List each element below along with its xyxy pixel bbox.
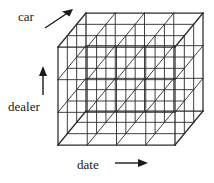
up-arrow-icon — [36, 66, 50, 96]
right-arrow-icon — [115, 156, 149, 170]
axis-label-car: car — [18, 10, 34, 23]
data-cube-lattice — [0, 0, 214, 183]
diagonal-up-right-arrow-icon — [44, 8, 74, 30]
axis-label-date: date — [77, 158, 99, 171]
axis-label-dealer: dealer — [8, 100, 40, 113]
figure-canvas: car dealer date — [0, 0, 214, 183]
